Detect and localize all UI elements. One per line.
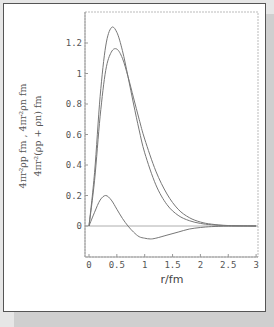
- x-tick-label: 0.5: [109, 260, 125, 270]
- y-tick-label: 0: [77, 221, 82, 231]
- y-tick-label: 1: [77, 69, 82, 79]
- x-tick-label: 0: [86, 260, 91, 270]
- x-tick-label: 2.5: [220, 260, 236, 270]
- y-tick-label: 0.4: [66, 160, 82, 170]
- data-curves: [89, 27, 256, 239]
- chart: 00.20.40.60.811.2 00.511.522.53 r/fm 4πr…: [0, 0, 274, 327]
- x-tick-label: 1: [142, 260, 147, 270]
- curve-0: [89, 27, 256, 226]
- plot-frame: [85, 12, 258, 257]
- curve-1: [89, 49, 256, 226]
- y-axis-label-line1: 4πr²ρp fm , 4πr²ρn fm: [17, 84, 28, 189]
- x-tick-labels: 00.511.522.53: [86, 254, 259, 270]
- x-tick-label: 2: [198, 260, 203, 270]
- y-axis-label-line2: 4πr²(ρp + ρn) fm: [32, 96, 43, 177]
- y-tick-label: 0.8: [66, 99, 82, 109]
- x-tick-label: 3: [253, 260, 258, 270]
- y-tick-label: 1.2: [66, 38, 82, 48]
- x-tick-label: 1.5: [164, 260, 180, 270]
- y-tick-label: 0.6: [66, 130, 82, 140]
- y-tick-label: 0.2: [66, 191, 82, 201]
- x-axis-label: r/fm: [161, 273, 184, 286]
